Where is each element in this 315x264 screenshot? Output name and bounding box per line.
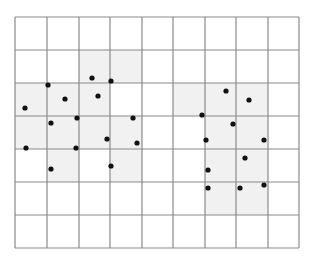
left-cluster-point xyxy=(89,75,94,80)
left-cluster-point xyxy=(130,115,135,120)
right-cluster-point xyxy=(261,137,266,142)
right-cluster-shaded-cell xyxy=(205,116,236,149)
left-cluster-point xyxy=(48,120,53,125)
grid-diagram xyxy=(0,0,315,264)
right-cluster-point xyxy=(237,185,242,190)
right-cluster-shaded-cell xyxy=(236,149,268,182)
left-cluster-shaded-cell xyxy=(79,116,110,149)
left-cluster-shaded-cell xyxy=(79,83,110,116)
right-cluster-point xyxy=(242,155,247,160)
left-cluster-point xyxy=(62,96,67,101)
left-cluster-point xyxy=(73,145,78,150)
left-cluster-point xyxy=(74,115,79,120)
left-cluster-point xyxy=(108,163,113,168)
left-cluster-point xyxy=(104,136,109,141)
right-cluster-shaded-cell xyxy=(236,116,268,149)
left-cluster-shaded-cell xyxy=(15,116,47,149)
left-cluster-point xyxy=(23,145,28,150)
left-cluster-point xyxy=(95,93,100,98)
right-cluster-point xyxy=(205,185,210,190)
right-cluster-point xyxy=(205,167,210,172)
right-cluster-point xyxy=(203,137,208,142)
right-cluster-point xyxy=(261,182,266,187)
left-cluster-point xyxy=(108,78,113,83)
left-cluster-shaded-cell xyxy=(110,50,142,83)
left-cluster-shaded-cell xyxy=(110,149,142,182)
right-cluster-shaded-cell xyxy=(205,83,236,116)
right-cluster-shaded-cell xyxy=(205,149,236,182)
right-cluster-shaded-cell xyxy=(173,83,205,116)
diagram-canvas xyxy=(0,0,315,264)
left-cluster-shaded-cell xyxy=(15,83,47,116)
left-cluster-point xyxy=(134,140,139,145)
right-cluster-point xyxy=(223,88,228,93)
left-cluster-shaded-cell xyxy=(47,149,79,182)
left-cluster-point xyxy=(22,105,27,110)
right-cluster-point xyxy=(246,97,251,102)
right-cluster-shaded-cell xyxy=(236,83,268,116)
left-cluster-point xyxy=(45,82,50,87)
right-cluster-point xyxy=(199,112,204,117)
left-cluster-point xyxy=(48,166,53,171)
right-cluster-point xyxy=(230,121,235,126)
